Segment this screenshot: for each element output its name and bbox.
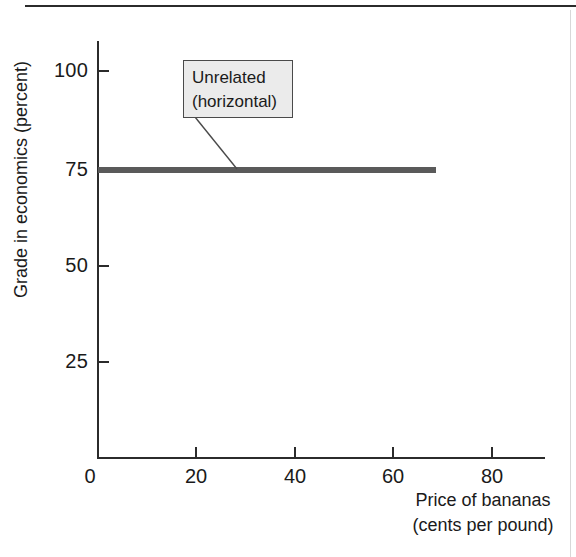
callout-text-line-1: Unrelated	[192, 66, 292, 90]
x-axis-tick-80	[491, 447, 493, 457]
y-tick-label-25-wrap: 25	[26, 351, 88, 371]
x-tick-label-40: 40	[265, 465, 325, 487]
callout-leader-line	[180, 112, 250, 176]
x-axis-tick-60	[392, 447, 394, 457]
y-axis-tick-100	[99, 70, 109, 72]
x-tick-label-80: 80	[462, 465, 522, 487]
y-tick-label-50: 50	[32, 255, 88, 275]
x-tick-label-0: 0	[60, 465, 120, 487]
callout-text-line-2: (horizontal)	[192, 90, 292, 114]
x-tick-label-20: 20	[166, 465, 226, 487]
x-axis-line	[97, 457, 545, 459]
y-tick-label-25: 25	[32, 351, 88, 371]
x-axis-title-holder: Price of bananas (cents per pound)	[383, 488, 576, 538]
data-series-unrelated-horizontal-line	[98, 167, 436, 173]
x-axis-tick-40	[294, 447, 296, 457]
y-tick-label-75: 75	[32, 159, 88, 179]
y-axis-title-holder: Grade in economics (percent)	[10, 40, 36, 300]
y-tick-label-100: 100	[32, 60, 88, 80]
y-axis-line	[97, 41, 99, 459]
chart-figure: 100 75 50 25 0 20 40 60 80 Unrelated (ho…	[0, 0, 576, 557]
callout-annotation-box: Unrelated (horizontal)	[183, 60, 293, 118]
x-axis-title-line-1: Price of bananas	[383, 488, 576, 513]
x-axis-title-line-2: (cents per pound)	[383, 513, 576, 538]
y-axis-title: Grade in economics (percent)	[10, 61, 32, 298]
y-axis-tick-50	[99, 265, 109, 267]
x-axis-tick-20	[195, 447, 197, 457]
y-axis-tick-25	[99, 361, 109, 363]
x-tick-label-60: 60	[363, 465, 423, 487]
